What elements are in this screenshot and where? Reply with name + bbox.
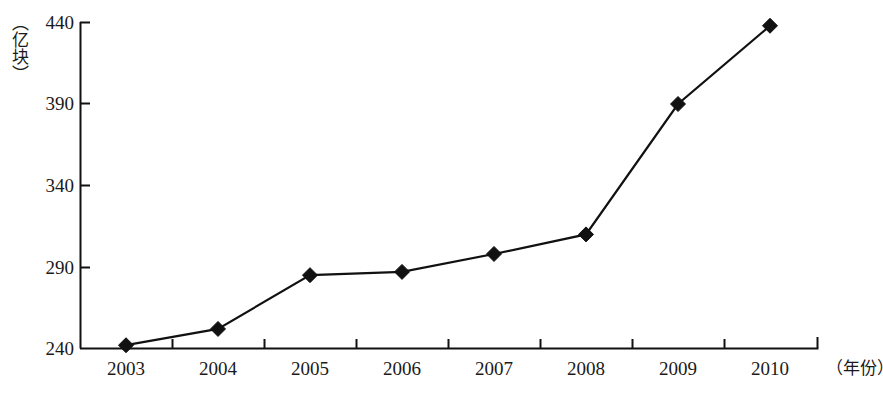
plot-area bbox=[0, 0, 883, 415]
data-point-marker-2008 bbox=[579, 227, 594, 242]
data-point-marker-2003 bbox=[119, 338, 134, 353]
series-markers bbox=[119, 18, 778, 352]
x-axis-ticks bbox=[173, 337, 818, 348]
data-point-marker-2006 bbox=[395, 264, 410, 279]
data-point-marker-2005 bbox=[303, 268, 318, 283]
line-chart: （亿块） 440 390 340 290 240 2003 2004 2005 … bbox=[0, 0, 883, 415]
data-point-marker-2007 bbox=[487, 246, 502, 261]
series-line bbox=[126, 26, 770, 345]
data-point-marker-2004 bbox=[211, 321, 226, 336]
